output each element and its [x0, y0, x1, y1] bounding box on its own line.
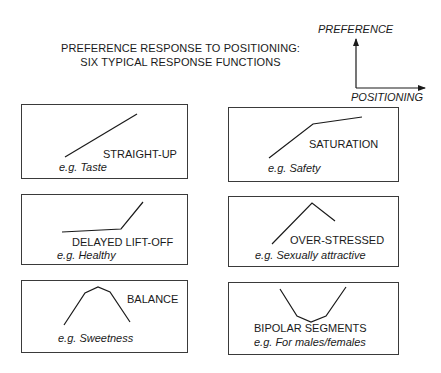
panel-label-straight-up: STRAIGHT-UP: [103, 148, 177, 160]
panel-example-balance: e.g. Sweetness: [58, 332, 133, 344]
panel-example-delayed-lift-off: e.g. Healthy: [57, 249, 116, 261]
panel-example-saturation: e.g. Safety: [268, 162, 321, 174]
panel-label-saturation: SATURATION: [309, 138, 378, 150]
response-curve-balance: [64, 287, 130, 325]
panel-label-balance: BALANCE: [127, 293, 178, 305]
panel-label-over-stressed: OVER-STRESSED: [290, 234, 384, 246]
axis-arrows-icon: [356, 39, 425, 88]
panel-example-bipolar-segments: e.g. For males/females: [254, 336, 366, 348]
response-curve-delayed-lift-off: [62, 202, 143, 232]
response-curves: [0, 0, 441, 373]
panel-label-delayed-lift-off: DELAYED LIFT-OFF: [72, 236, 173, 248]
response-curve-bipolar-segments: [280, 287, 346, 322]
panel-label-bipolar-segments: BIPOLAR SEGMENTS: [254, 322, 366, 334]
panel-example-straight-up: e.g. Taste: [59, 161, 107, 173]
panel-example-over-stressed: e.g. Sexually attractive: [255, 249, 366, 261]
